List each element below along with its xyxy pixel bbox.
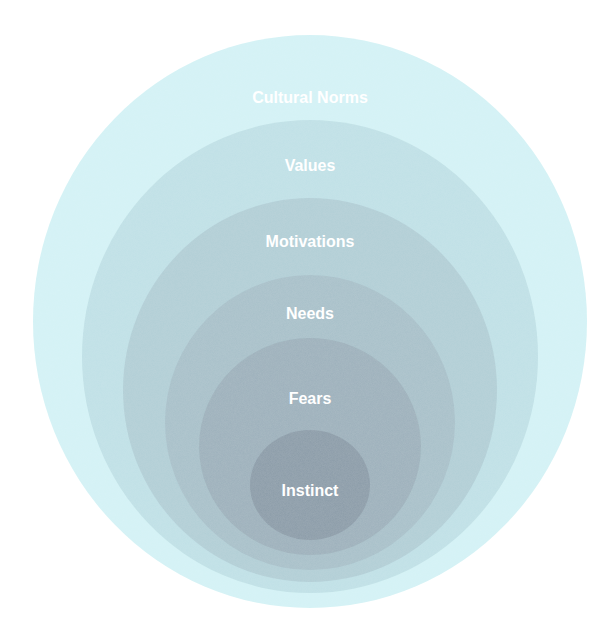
layer-needs-label: Needs xyxy=(286,305,334,322)
layer-instinct-label: Instinct xyxy=(282,482,340,499)
nested-circles-diagram: Cultural NormsValuesMotivationsNeedsFear… xyxy=(0,0,613,627)
layer-values-label: Values xyxy=(285,157,336,174)
layer-fears-label: Fears xyxy=(289,390,332,407)
layer-cultural-norms-label: Cultural Norms xyxy=(252,89,368,106)
layer-motivations-label: Motivations xyxy=(266,233,355,250)
